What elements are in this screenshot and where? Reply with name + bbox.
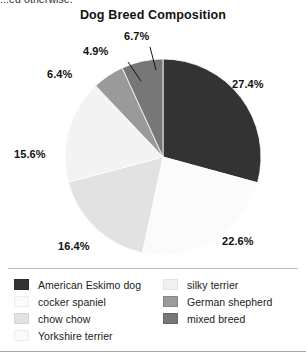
pie-chart: 27.4% 22.6% 16.4% 15.6% 6.4% 4.9% 6.7%: [0, 0, 306, 268]
pct-label-chow-chow: 16.4%: [58, 240, 90, 252]
legend-bottom-divider: [0, 351, 306, 352]
pct-label-yorkshire-terrier: 15.6%: [14, 148, 46, 160]
legend-item-label: cocker spaniel: [38, 296, 106, 308]
pie-svg: [0, 0, 306, 268]
pie-chart-page: ...ed otherwise. Dog Breed Composition 2…: [0, 0, 306, 354]
legend-item[interactable]: Yorkshire terrier: [14, 327, 141, 344]
legend-item[interactable]: cocker spaniel: [14, 293, 141, 310]
legend-item[interactable]: mixed breed: [163, 310, 272, 327]
legend-swatch-icon: [14, 296, 29, 307]
pct-label-american-eskimo: 27.4%: [232, 78, 264, 90]
legend-item-label: Yorkshire terrier: [38, 330, 113, 342]
legend-item-label: American Eskimo dog: [38, 279, 141, 291]
legend-top-divider: [8, 268, 298, 269]
legend-swatch-icon: [14, 279, 29, 290]
legend-swatch-icon: [14, 330, 29, 341]
legend-column-left: American Eskimo dogcocker spanielchow ch…: [14, 276, 141, 344]
legend-item[interactable]: silky terrier: [163, 276, 272, 293]
legend-item[interactable]: American Eskimo dog: [14, 276, 141, 293]
pct-label-german-shepherd: 4.9%: [83, 45, 108, 57]
pct-label-cocker-spaniel: 22.6%: [222, 235, 254, 247]
legend-swatch-icon: [14, 313, 29, 324]
legend-item[interactable]: German shepherd: [163, 293, 272, 310]
legend-item-label: silky terrier: [187, 279, 238, 291]
legend-item-label: mixed breed: [187, 313, 245, 325]
legend-item-label: chow chow: [38, 313, 90, 325]
legend-swatch-icon: [163, 313, 178, 324]
legend-swatch-icon: [163, 279, 178, 290]
legend-column-right: silky terrierGerman shepherdmixed breed: [163, 276, 272, 327]
pct-label-mixed-breed: 6.4%: [47, 68, 72, 80]
chart-legend: American Eskimo dogcocker spanielchow ch…: [0, 268, 306, 354]
legend-item-label: German shepherd: [187, 296, 272, 308]
legend-item[interactable]: chow chow: [14, 310, 141, 327]
legend-swatch-icon: [163, 296, 178, 307]
pct-label-silky-group: 6.7%: [124, 30, 149, 42]
